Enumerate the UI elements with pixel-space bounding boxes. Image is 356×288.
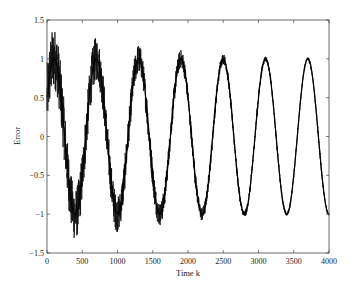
- error-chart: 05001000150020002500300035004000 1.510.5…: [0, 0, 356, 288]
- x-tick-label: 0: [45, 257, 49, 266]
- axes-frame: [47, 20, 329, 253]
- y-tick-label: 0.5: [34, 94, 44, 103]
- x-tick-label: 1500: [145, 257, 161, 266]
- x-tick-label: 3000: [251, 257, 267, 266]
- y-tick-label: −1: [35, 210, 44, 219]
- x-axis: 05001000150020002500300035004000: [45, 20, 337, 266]
- y-tick-label: −1.5: [29, 249, 44, 258]
- y-tick-label: 1: [40, 55, 44, 64]
- x-tick-label: 1000: [110, 257, 126, 266]
- x-tick-label: 4000: [321, 257, 337, 266]
- x-tick-label: 2500: [215, 257, 231, 266]
- y-tick-label: 0: [40, 133, 44, 142]
- plot-area: [47, 32, 329, 238]
- x-tick-label: 3500: [286, 257, 302, 266]
- x-axis-label: Time k: [176, 268, 201, 278]
- error-series-line: [47, 32, 329, 238]
- y-axis-label: Error: [12, 127, 22, 145]
- x-tick-label: 2000: [180, 257, 196, 266]
- y-tick-label: 1.5: [34, 16, 44, 25]
- x-tick-label: 500: [76, 257, 88, 266]
- y-tick-label: −0.5: [29, 171, 44, 180]
